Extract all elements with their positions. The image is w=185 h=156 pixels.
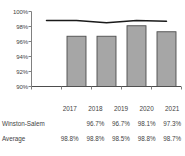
bar-2018: [67, 36, 86, 86]
cell-average-2018: 98.8%: [83, 135, 109, 142]
bar-2020: [127, 26, 146, 87]
series-label-average: Average: [0, 135, 57, 142]
average-line-series: [47, 21, 167, 23]
y-axis-label-100: 100%: [2, 9, 28, 15]
year-label-2018: 2018: [83, 105, 109, 112]
data-table: 2017 2018 2019 2020 2021 Winston-Salem 9…: [0, 101, 185, 146]
cell-average-2017: 98.8%: [57, 135, 83, 142]
year-label-2019: 2019: [108, 105, 134, 112]
bar-2021: [157, 32, 176, 87]
year-label-2017: 2017: [57, 105, 83, 112]
year-label-2021: 2021: [159, 105, 185, 112]
year-label-2020: 2020: [134, 105, 160, 112]
cell-average-2019: 98.5%: [108, 135, 134, 142]
plot-area: 100% 98% 96% 94% 92% 90%: [0, 0, 185, 104]
table-row: Average 98.8% 98.8% 98.5% 98.8% 98.7%: [0, 131, 185, 146]
y-axis-label-96: 96%: [2, 39, 28, 45]
series-label-winston-salem: Winston-Salem: [0, 120, 57, 127]
bar-2019: [97, 36, 116, 86]
cell-winston-salem-2020: 98.1%: [134, 120, 160, 127]
cell-winston-salem-2018: 96.7%: [83, 120, 109, 127]
table-row: Winston-Salem 96.7% 96.7% 98.1% 97.3%: [0, 116, 185, 131]
chart-figure: 100% 98% 96% 94% 92% 90%: [0, 0, 185, 156]
y-axis-label-94: 94%: [2, 54, 28, 60]
cell-winston-salem-2021: 97.3%: [159, 120, 185, 127]
y-axis-label-92: 92%: [2, 69, 28, 75]
cell-winston-salem-2019: 96.7%: [108, 120, 134, 127]
cell-average-2020: 98.8%: [134, 135, 160, 142]
table-row-years: 2017 2018 2019 2020 2021: [0, 101, 185, 116]
cell-average-2021: 98.7%: [159, 135, 185, 142]
y-axis-label-98: 98%: [2, 24, 28, 30]
y-axis-label-90: 90%: [2, 84, 28, 90]
